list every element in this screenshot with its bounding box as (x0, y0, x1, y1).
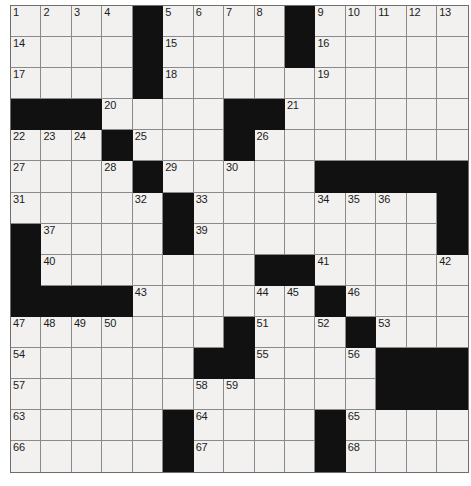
crossword-cell[interactable] (346, 99, 376, 130)
crossword-cell[interactable]: 3 (72, 6, 102, 37)
crossword-cell[interactable]: 40 (41, 255, 71, 286)
crossword-cell[interactable] (346, 68, 376, 99)
crossword-cell[interactable]: 67 (194, 441, 224, 472)
crossword-cell[interactable]: 34 (315, 193, 345, 224)
crossword-cell[interactable]: 63 (11, 410, 41, 441)
crossword-cell[interactable] (194, 99, 224, 130)
crossword-cell[interactable] (285, 193, 315, 224)
crossword-cell[interactable] (437, 286, 467, 317)
crossword-cell[interactable]: 54 (11, 348, 41, 379)
crossword-cell[interactable] (163, 255, 193, 286)
crossword-cell[interactable] (194, 317, 224, 348)
crossword-cell[interactable]: 20 (102, 99, 132, 130)
crossword-cell[interactable] (376, 255, 406, 286)
crossword-cell[interactable] (163, 130, 193, 161)
crossword-cell[interactable] (224, 441, 254, 472)
crossword-cell[interactable]: 23 (41, 130, 71, 161)
crossword-cell[interactable]: 41 (315, 255, 345, 286)
crossword-cell[interactable] (41, 410, 71, 441)
crossword-cell[interactable] (41, 193, 71, 224)
crossword-cell[interactable]: 68 (346, 441, 376, 472)
crossword-cell[interactable] (285, 224, 315, 255)
crossword-cell[interactable] (437, 37, 467, 68)
crossword-cell[interactable] (72, 37, 102, 68)
crossword-cell[interactable]: 22 (11, 130, 41, 161)
crossword-cell[interactable] (255, 193, 285, 224)
crossword-cell[interactable] (346, 130, 376, 161)
crossword-cell[interactable] (102, 441, 132, 472)
crossword-cell[interactable]: 52 (315, 317, 345, 348)
crossword-cell[interactable]: 51 (255, 317, 285, 348)
crossword-cell[interactable]: 33 (194, 193, 224, 224)
crossword-cell[interactable]: 5 (163, 6, 193, 37)
crossword-cell[interactable]: 19 (315, 68, 345, 99)
crossword-cell[interactable] (72, 441, 102, 472)
crossword-cell[interactable] (376, 130, 406, 161)
crossword-cell[interactable]: 46 (346, 286, 376, 317)
crossword-cell[interactable] (224, 37, 254, 68)
crossword-cell[interactable] (285, 317, 315, 348)
crossword-cell[interactable] (133, 255, 163, 286)
crossword-cell[interactable] (41, 348, 71, 379)
crossword-cell[interactable] (41, 441, 71, 472)
crossword-cell[interactable] (133, 441, 163, 472)
crossword-cell[interactable] (285, 441, 315, 472)
crossword-cell[interactable]: 37 (41, 224, 71, 255)
crossword-cell[interactable] (407, 410, 437, 441)
crossword-cell[interactable]: 55 (255, 348, 285, 379)
crossword-cell[interactable] (285, 68, 315, 99)
crossword-cell[interactable] (72, 224, 102, 255)
crossword-cell[interactable] (163, 99, 193, 130)
crossword-cell[interactable] (255, 224, 285, 255)
crossword-cell[interactable] (41, 37, 71, 68)
crossword-cell[interactable] (255, 441, 285, 472)
crossword-cell[interactable]: 57 (11, 379, 41, 410)
crossword-cell[interactable] (346, 224, 376, 255)
crossword-cell[interactable] (102, 37, 132, 68)
crossword-cell[interactable] (407, 224, 437, 255)
crossword-cell[interactable] (437, 99, 467, 130)
crossword-cell[interactable]: 42 (437, 255, 467, 286)
crossword-cell[interactable]: 56 (346, 348, 376, 379)
crossword-cell[interactable]: 31 (11, 193, 41, 224)
crossword-cell[interactable] (437, 317, 467, 348)
crossword-cell[interactable] (133, 348, 163, 379)
crossword-cell[interactable] (285, 161, 315, 192)
crossword-cell[interactable] (224, 68, 254, 99)
crossword-cell[interactable] (163, 317, 193, 348)
crossword-cell[interactable] (72, 379, 102, 410)
crossword-cell[interactable] (376, 37, 406, 68)
crossword-cell[interactable]: 36 (376, 193, 406, 224)
crossword-cell[interactable]: 15 (163, 37, 193, 68)
crossword-cell[interactable] (376, 224, 406, 255)
crossword-cell[interactable] (376, 99, 406, 130)
crossword-cell[interactable] (285, 348, 315, 379)
crossword-cell[interactable]: 47 (11, 317, 41, 348)
crossword-cell[interactable]: 25 (133, 130, 163, 161)
crossword-cell[interactable] (437, 410, 467, 441)
crossword-cell[interactable] (376, 410, 406, 441)
crossword-cell[interactable] (194, 255, 224, 286)
crossword-grid[interactable]: 1234567891011121314151617181920212223242… (10, 5, 469, 473)
crossword-cell[interactable] (194, 130, 224, 161)
crossword-cell[interactable] (315, 348, 345, 379)
crossword-cell[interactable] (437, 130, 467, 161)
crossword-cell[interactable]: 21 (285, 99, 315, 130)
crossword-cell[interactable] (41, 379, 71, 410)
crossword-cell[interactable] (255, 379, 285, 410)
crossword-cell[interactable] (346, 255, 376, 286)
crossword-cell[interactable]: 32 (133, 193, 163, 224)
crossword-cell[interactable]: 30 (224, 161, 254, 192)
crossword-cell[interactable]: 43 (133, 286, 163, 317)
crossword-cell[interactable] (224, 255, 254, 286)
crossword-cell[interactable]: 48 (41, 317, 71, 348)
crossword-cell[interactable]: 10 (346, 6, 376, 37)
crossword-cell[interactable] (194, 68, 224, 99)
crossword-cell[interactable] (72, 193, 102, 224)
crossword-cell[interactable] (72, 410, 102, 441)
crossword-cell[interactable] (346, 37, 376, 68)
crossword-cell[interactable] (285, 379, 315, 410)
crossword-cell[interactable]: 64 (194, 410, 224, 441)
crossword-cell[interactable]: 49 (72, 317, 102, 348)
crossword-cell[interactable]: 29 (163, 161, 193, 192)
